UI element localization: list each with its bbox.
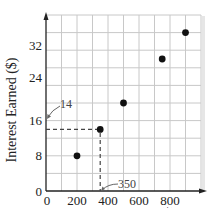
x-axis-label: Amount Saved ($) bbox=[72, 206, 176, 208]
y-tick: 8 bbox=[36, 148, 43, 163]
x-tick: 0 bbox=[44, 193, 51, 208]
data-point bbox=[182, 29, 189, 36]
data-point bbox=[159, 56, 166, 63]
scatter-chart: 0 200 400 600 800 0 8 16 24 32 14 350 Am… bbox=[0, 0, 221, 208]
arrow-head-icon bbox=[101, 187, 105, 192]
annotation-14: 14 bbox=[60, 97, 72, 111]
annotation-350: 350 bbox=[118, 177, 136, 191]
data-point bbox=[74, 152, 81, 159]
data-point bbox=[97, 126, 104, 133]
y-tick: 16 bbox=[29, 113, 43, 128]
y-tick: 0 bbox=[36, 184, 43, 199]
y-axis-arrow-icon bbox=[44, 12, 49, 20]
frame-shadow bbox=[202, 16, 205, 192]
y-axis-label: Interest Earned ($) bbox=[4, 57, 20, 162]
y-tick: 24 bbox=[29, 70, 43, 85]
data-points bbox=[74, 29, 189, 159]
annotation-arrow-y bbox=[48, 106, 60, 117]
data-point bbox=[120, 100, 127, 107]
y-tick: 32 bbox=[29, 38, 42, 53]
